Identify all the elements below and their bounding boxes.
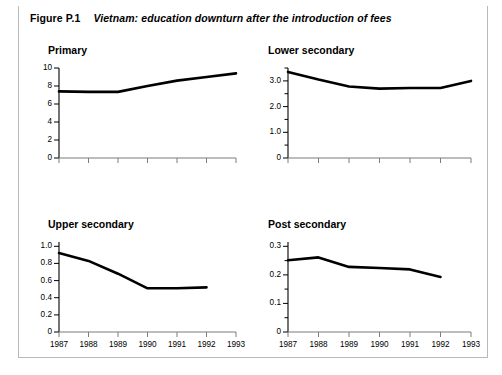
ytick-label-primary-8: 8 xyxy=(30,82,52,90)
panel-lower-secondary: Lower secondary xyxy=(265,44,480,174)
xtick-label-upper-1992: 1992 xyxy=(191,341,223,349)
ytick-label-lower-0: 0 xyxy=(261,154,281,162)
xtick-label-post-1992: 1992 xyxy=(425,341,457,349)
ytick-label-upper-06: 0.6 xyxy=(30,277,52,285)
xtick-label-post-1988: 1988 xyxy=(303,341,335,349)
xtick-label-post-1987: 1987 xyxy=(272,341,304,349)
xtick-label-post-1990: 1990 xyxy=(364,341,396,349)
panel-primary: Primary xyxy=(30,44,240,174)
xtick-label-upper-1987: 1987 xyxy=(43,341,75,349)
ytick-label-upper-0: 0 xyxy=(30,328,52,336)
plot-svg-upper-secondary xyxy=(30,236,240,348)
plot-svg-lower-secondary xyxy=(265,62,480,174)
plot-lower-secondary: 0 1.0 2.0 3.0 xyxy=(265,62,480,174)
ytick-label-upper-02: 0.2 xyxy=(30,311,52,319)
panel-title-primary: Primary xyxy=(48,44,87,56)
xtick-label-upper-1991: 1991 xyxy=(161,341,193,349)
xtick-label-post-1993: 1993 xyxy=(455,341,487,349)
ytick-label-post-02: 0.2 xyxy=(261,271,281,279)
plot-svg-primary xyxy=(30,62,240,174)
ytick-label-primary-0: 0 xyxy=(30,154,52,162)
figure-number: Figure P.1 xyxy=(30,12,80,24)
xtick-label-upper-1988: 1988 xyxy=(73,341,105,349)
plot-primary: 0 2 4 6 8 10 xyxy=(30,62,240,174)
panel-title-post-secondary: Post secondary xyxy=(268,218,346,230)
data-line-primary xyxy=(59,73,236,91)
ytick-label-lower-3: 3.0 xyxy=(261,77,281,85)
ytick-label-post-0: 0 xyxy=(261,328,281,336)
data-line-upper-secondary xyxy=(59,253,207,288)
plot-svg-post-secondary xyxy=(265,236,480,348)
ytick-label-upper-04: 0.4 xyxy=(30,294,52,302)
ytick-label-post-01: 0.1 xyxy=(261,299,281,307)
xtick-label-upper-1989: 1989 xyxy=(102,341,134,349)
ytick-label-upper-08: 0.8 xyxy=(30,259,52,267)
data-line-lower-secondary xyxy=(288,72,471,89)
panel-post-secondary: Post secondary xyxy=(265,218,480,358)
plot-upper-secondary: 0 0.2 0.4 0.6 0.8 1.0 1987 1988 1989 199… xyxy=(30,236,240,348)
xtick-label-upper-1990: 1990 xyxy=(132,341,164,349)
figure-root: Figure P.1Vietnam: education downturn af… xyxy=(0,0,502,375)
ytick-label-upper-10: 1.0 xyxy=(30,242,52,250)
xtick-label-upper-1993: 1993 xyxy=(220,341,252,349)
ytick-label-primary-2: 2 xyxy=(30,136,52,144)
panel-title-upper-secondary: Upper secondary xyxy=(48,218,134,230)
plot-post-secondary: 0 0.1 0.2 0.3 1987 1988 1989 1990 1991 1… xyxy=(265,236,480,348)
figure-title: Vietnam: education downturn after the in… xyxy=(93,12,391,24)
ytick-label-primary-4: 4 xyxy=(30,118,52,126)
ytick-label-lower-2: 2.0 xyxy=(261,103,281,111)
xtick-label-post-1991: 1991 xyxy=(394,341,426,349)
ytick-label-primary-6: 6 xyxy=(30,100,52,108)
ytick-label-post-03: 0.3 xyxy=(261,242,281,250)
data-line-post-secondary xyxy=(288,257,441,277)
figure-caption: Figure P.1Vietnam: education downturn af… xyxy=(30,12,392,24)
ytick-label-lower-1: 1.0 xyxy=(261,128,281,136)
panel-upper-secondary: Upper secondary xyxy=(30,218,240,358)
panel-title-lower-secondary: Lower secondary xyxy=(268,44,354,56)
xtick-label-post-1989: 1989 xyxy=(333,341,365,349)
ytick-label-primary-10: 10 xyxy=(30,64,52,72)
